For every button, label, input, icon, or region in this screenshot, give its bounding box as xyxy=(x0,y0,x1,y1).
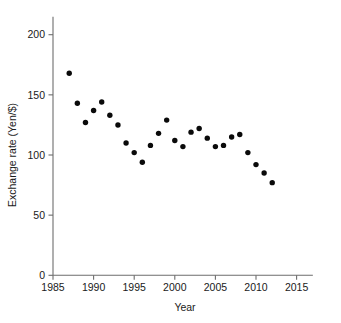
data-point xyxy=(123,140,128,145)
data-point xyxy=(91,108,96,113)
data-point xyxy=(188,129,193,134)
x-tick-label: 1995 xyxy=(123,281,147,293)
y-tick-label: 0 xyxy=(39,269,45,281)
data-point xyxy=(270,180,275,185)
x-tick-label: 2005 xyxy=(204,281,228,293)
y-tick-label: 200 xyxy=(27,28,45,40)
data-point xyxy=(107,113,112,118)
x-axis-title: Year xyxy=(174,301,196,313)
data-point xyxy=(253,162,258,167)
y-tick-label: 50 xyxy=(33,209,45,221)
data-point xyxy=(164,117,169,122)
x-tick-label: 2015 xyxy=(285,281,309,293)
chart-canvas: 050100150200 198519901995200020052010201… xyxy=(0,0,341,323)
y-tick-label: 100 xyxy=(27,149,45,161)
x-tick-label: 2000 xyxy=(163,281,187,293)
data-point xyxy=(99,99,104,104)
data-point xyxy=(132,150,137,155)
x-tick-label: 1990 xyxy=(82,281,106,293)
data-point xyxy=(229,134,234,139)
y-axis-title: Exchange rate (Yen/$) xyxy=(6,103,18,207)
data-point xyxy=(196,126,201,131)
data-point xyxy=(221,143,226,148)
data-point xyxy=(83,120,88,125)
data-point xyxy=(75,101,80,106)
y-tick-label: 150 xyxy=(27,89,45,101)
data-point xyxy=(245,150,250,155)
data-point xyxy=(148,143,153,148)
x-axis: 1985199019952000200520102015 xyxy=(41,275,313,293)
x-tick-label: 2010 xyxy=(244,281,268,293)
y-axis: 050100150200 xyxy=(27,17,53,281)
data-points xyxy=(67,71,275,186)
data-point xyxy=(205,135,210,140)
data-point xyxy=(237,132,242,137)
x-tick-label: 1985 xyxy=(41,281,65,293)
data-point xyxy=(213,144,218,149)
data-point xyxy=(172,138,177,143)
data-point xyxy=(115,122,120,127)
data-point xyxy=(180,144,185,149)
data-point xyxy=(156,131,161,136)
data-point xyxy=(140,160,145,165)
scatter-chart: 050100150200 198519901995200020052010201… xyxy=(0,0,341,323)
data-point xyxy=(67,71,72,76)
data-point xyxy=(261,170,266,175)
